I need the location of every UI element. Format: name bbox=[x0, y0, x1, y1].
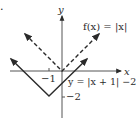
y-axis-label: y bbox=[57, 4, 64, 15]
problem-marker: . bbox=[0, 0, 4, 13]
tick-label-neg2: −2 bbox=[66, 91, 81, 102]
g-label: y = |x + 1| −2 bbox=[67, 76, 136, 88]
graph: . y x f(x) = |x| y = |x + 1| −2 −1 −2 bbox=[0, 0, 136, 140]
tick-label-neg1: −1 bbox=[41, 73, 56, 84]
f-label: f(x) = |x| bbox=[83, 21, 127, 33]
